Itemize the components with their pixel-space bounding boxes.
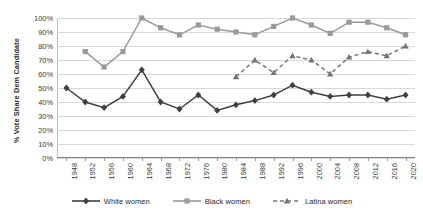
data-point-marker (120, 49, 125, 54)
series-line (85, 18, 405, 67)
x-axis-tickmark (66, 158, 67, 161)
data-point-marker (271, 92, 277, 99)
series-black-women (83, 15, 409, 69)
x-axis-tickmark (198, 158, 199, 161)
data-point-marker (158, 25, 163, 30)
series-line (236, 46, 406, 77)
x-axis-tick-label: 2008 (352, 163, 361, 179)
data-point-marker (384, 96, 390, 103)
y-axis-tick-label: 60% (38, 70, 53, 79)
x-axis-tickmark (123, 158, 124, 161)
x-axis-tick-label: 1952 (88, 163, 97, 179)
y-axis-tick-label: 30% (38, 112, 53, 121)
data-point-marker (365, 48, 371, 54)
x-axis-tickmark (293, 158, 294, 161)
y-axis-tick-label: 90% (38, 28, 53, 37)
x-axis-tickmark (236, 158, 237, 161)
data-point-marker (290, 15, 295, 20)
x-axis-tick-label: 1996 (296, 163, 305, 179)
data-point-marker (139, 15, 144, 20)
data-point-marker (215, 27, 220, 32)
x-axis-tickmark (406, 158, 407, 161)
chart-legend: White womenBlack womenLatina women (0, 196, 423, 206)
y-axis-tick-label: 100% (34, 14, 53, 23)
x-axis-tick-label: 1976 (202, 163, 211, 179)
y-axis-tick-label: 10% (38, 140, 53, 149)
x-axis-tickmark (311, 158, 312, 161)
data-point-marker (402, 43, 408, 49)
data-point-marker (365, 20, 370, 25)
data-series-layer (57, 18, 415, 158)
data-point-marker (233, 29, 238, 34)
x-axis-tickmark (217, 158, 218, 161)
x-axis-tickmark (85, 158, 86, 161)
x-axis-tickmark (349, 158, 350, 161)
x-axis-tickmark (274, 158, 275, 161)
x-axis-tick-label: 2016 (390, 163, 399, 179)
x-axis-tick-label: 2004 (333, 163, 342, 179)
legend-label: White women (104, 197, 150, 206)
x-axis-tick-label: 2020 (409, 163, 418, 179)
data-point-marker (271, 24, 276, 29)
data-point-marker (102, 64, 107, 69)
x-axis-tick-label: 1956 (107, 163, 116, 179)
data-point-marker (403, 32, 408, 37)
legend-item-latina-women[interactable]: Latina women (272, 196, 352, 206)
y-axis-tick-label: 0% (42, 154, 53, 163)
legend-item-black-women[interactable]: Black women (172, 196, 250, 206)
series-latina-women (233, 43, 409, 79)
y-axis-title: % Vote Share Dem Candidate (12, 21, 21, 161)
chart-container: % Vote Share Dem Candidate 0%10%20%30%40… (0, 0, 423, 219)
data-point-marker (327, 93, 333, 100)
data-point-marker (101, 104, 107, 111)
data-point-marker (252, 32, 257, 37)
data-point-marker (83, 198, 89, 205)
data-point-marker (365, 92, 371, 99)
legend-label: Latina women (305, 197, 352, 206)
x-axis-tickmark (387, 158, 388, 161)
x-axis-tick-label: 1960 (126, 163, 135, 179)
y-axis-tick-label: 80% (38, 42, 53, 51)
data-point-marker (328, 31, 333, 36)
data-point-marker (196, 22, 201, 27)
y-axis-tick-label: 20% (38, 126, 53, 135)
data-point-marker (403, 92, 409, 99)
data-point-marker (233, 101, 239, 108)
data-point-marker (184, 198, 189, 203)
data-point-marker (308, 57, 314, 63)
x-axis-tickmark (368, 158, 369, 161)
legend-swatch-square-icon (172, 196, 202, 206)
plot-area: 0%10%20%30%40%50%60%70%80%90%100% 194819… (57, 18, 415, 158)
legend-label: Black women (205, 197, 250, 206)
x-axis-tick-label: 1964 (145, 163, 154, 179)
series-white-women (63, 66, 408, 113)
x-axis-tickmark (142, 158, 143, 161)
legend-item-white-women[interactable]: White women (71, 196, 150, 206)
data-point-marker (177, 32, 182, 37)
data-point-marker (83, 49, 88, 54)
data-point-marker (384, 25, 389, 30)
x-axis-tickmark (179, 158, 180, 161)
x-axis-tickmark (104, 158, 105, 161)
legend-swatch-diamond-icon (71, 196, 101, 206)
x-axis-tick-label: 2000 (315, 163, 324, 179)
data-point-marker (346, 92, 352, 99)
data-point-marker (290, 82, 296, 89)
x-axis-tick-label: 1980 (220, 163, 229, 179)
data-point-marker (309, 22, 314, 27)
legend-swatch-triangle-icon (272, 196, 302, 206)
data-point-marker (346, 20, 351, 25)
x-axis-tick-label: 2012 (371, 163, 380, 179)
x-axis-tickmark (330, 158, 331, 161)
x-axis-tick-label: 1988 (258, 163, 267, 179)
data-point-marker (308, 89, 314, 96)
data-point-marker (252, 57, 258, 63)
x-axis-tick-label: 1948 (70, 163, 79, 179)
x-axis-tick-label: 1984 (239, 163, 248, 179)
data-point-marker (289, 53, 295, 59)
y-axis-tick-label: 40% (38, 98, 53, 107)
x-axis-tick-label: 1968 (164, 163, 173, 179)
x-axis-tickmark (255, 158, 256, 161)
y-axis-tick-label: 70% (38, 56, 53, 65)
x-axis-tick-label: 1992 (277, 163, 286, 179)
